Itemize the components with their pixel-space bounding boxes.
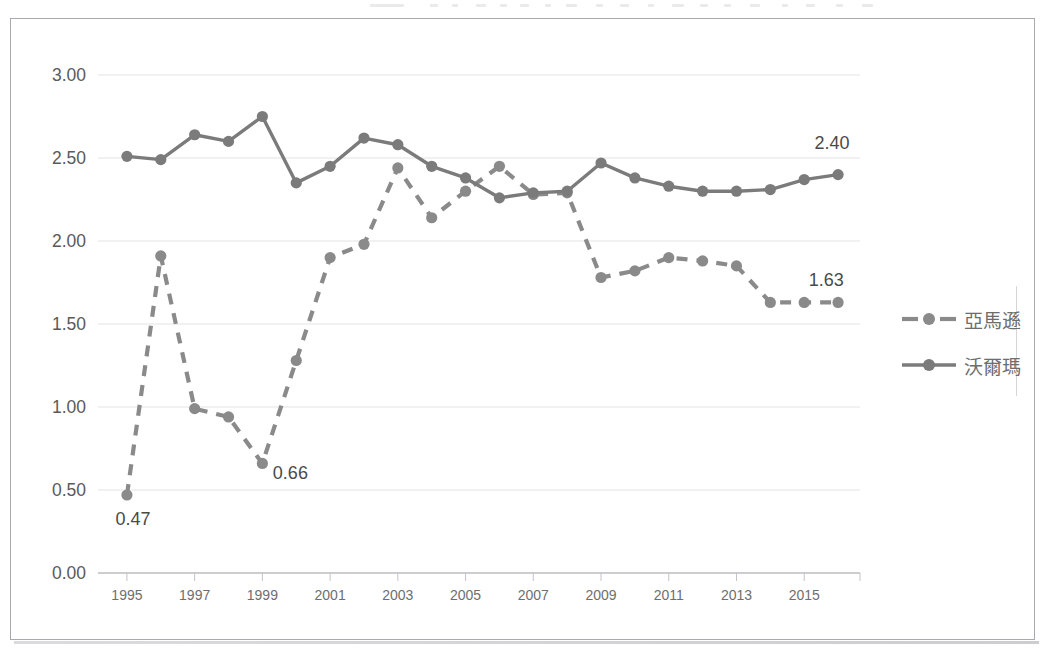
chart-frame — [10, 18, 1035, 640]
legend-label-walmart: 沃爾瑪 — [964, 352, 1021, 379]
chart-legend: 亞馬遜 沃爾瑪 — [900, 296, 1020, 388]
legend-label-amazon: 亞馬遜 — [964, 306, 1021, 333]
chart-frame-shadow — [14, 641, 1039, 644]
legend-swatch-dashed-icon — [900, 312, 958, 326]
legend-swatch-solid-icon — [900, 358, 958, 372]
legend-item-walmart[interactable]: 沃爾瑪 — [900, 342, 1020, 388]
page-top-artifact — [0, 0, 1063, 14]
legend-item-amazon[interactable]: 亞馬遜 — [900, 296, 1020, 342]
